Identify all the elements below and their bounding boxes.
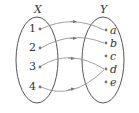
x-element-1: 1 bbox=[29, 22, 36, 35]
arrow-4-to-d bbox=[41, 70, 104, 91]
x-element-1-dot bbox=[39, 28, 42, 31]
set-x: X 1 2 3 4 bbox=[16, 3, 58, 103]
y-element-d-dot bbox=[105, 68, 108, 71]
arrow-3-to-d bbox=[41, 58, 104, 69]
x-element-3: 3 bbox=[29, 60, 36, 73]
x-element-2: 2 bbox=[29, 41, 36, 54]
y-element-c-dot bbox=[105, 55, 108, 58]
x-element-4-dot bbox=[39, 86, 42, 89]
y-element-a-dot bbox=[105, 29, 108, 32]
x-element-3-dot bbox=[39, 66, 42, 69]
y-element-e: e bbox=[110, 76, 117, 89]
y-element-b-dot bbox=[105, 42, 108, 45]
arrow-1-to-a bbox=[41, 22, 104, 30]
y-element-e-dot bbox=[105, 81, 108, 84]
y-element-b: b bbox=[110, 37, 117, 50]
y-element-d: d bbox=[110, 63, 117, 76]
mapping-arrows bbox=[41, 22, 104, 92]
x-element-4: 4 bbox=[29, 80, 36, 93]
mapping-diagram: X 1 2 3 4 Y a b c d e bbox=[0, 0, 139, 113]
set-y: Y a b c d e bbox=[82, 3, 124, 103]
set-x-title: X bbox=[33, 3, 43, 16]
arrow-2-to-b bbox=[41, 38, 104, 48]
x-element-2-dot bbox=[39, 47, 42, 50]
y-element-a: a bbox=[110, 24, 117, 37]
set-y-title: Y bbox=[100, 3, 109, 16]
y-element-c: c bbox=[110, 50, 116, 63]
